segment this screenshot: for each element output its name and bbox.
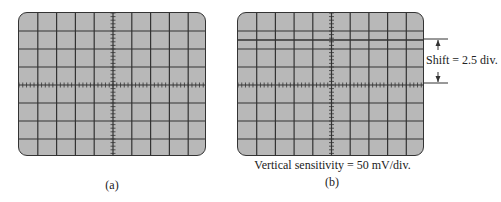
arrow-down-icon <box>436 76 441 82</box>
sensitivity-caption: Vertical sensitivity = 50 mV/div. <box>250 158 415 173</box>
graticule-grid-a <box>19 13 206 156</box>
panel-label-b: (b) <box>320 175 344 190</box>
shift-label: Shift = 2.5 div. <box>426 53 498 68</box>
oscilloscope-screen-a <box>18 12 206 156</box>
oscilloscope-screen-b <box>237 12 424 156</box>
panel-label-a: (a) <box>100 178 124 193</box>
arrow-up-icon <box>436 40 441 46</box>
graticule-grid-b <box>238 13 424 156</box>
